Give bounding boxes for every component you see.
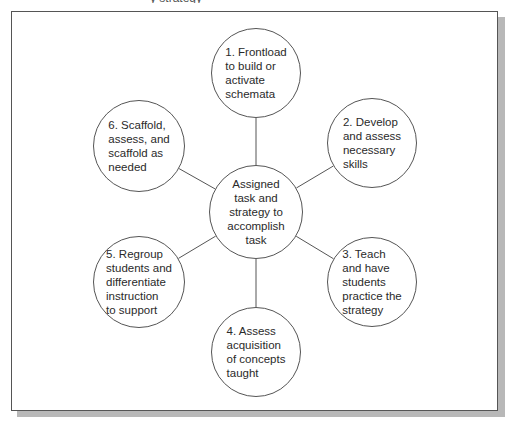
center-node-label: Assigned task and strategy to accomplish… (227, 177, 285, 247)
step-1-label: 1. Frontload to build or activate schema… (225, 45, 286, 101)
connector-line (296, 236, 333, 258)
step-2-node: 2. Develop and assess necessary skills (327, 98, 417, 188)
step-4-label: 4. Assess acquisition of concepts taught (227, 324, 286, 380)
center-node: Assigned task and strategy to accomplish… (209, 165, 303, 259)
step-3-node: 3. Teach and have students practice the … (327, 237, 417, 327)
step-1-node: 1. Frontload to build or activate schema… (211, 28, 301, 118)
step-4-node: 4. Assess acquisition of concepts taught (211, 307, 301, 397)
connector-line (296, 166, 333, 188)
step-5-node: 5. Regroup students and differentiate in… (93, 236, 185, 328)
step-2-label: 2. Develop and assess necessary skills (343, 115, 401, 171)
connector-line (179, 169, 215, 189)
step-6-node: 6. Scaffold, assess, and scaffold as nee… (93, 100, 185, 192)
step-5-label: 5. Regroup students and differentiate in… (106, 247, 172, 317)
step-3-label: 3. Teach and have students practice the … (342, 247, 401, 317)
step-6-label: 6. Scaffold, assess, and scaffold as nee… (108, 118, 169, 174)
connector-line (178, 236, 215, 258)
